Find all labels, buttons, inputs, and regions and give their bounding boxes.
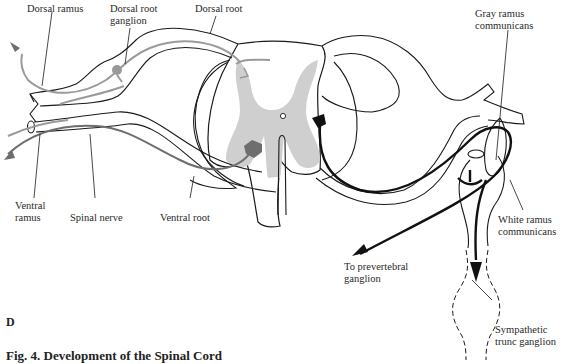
label-prevertebral: To prevertebral ganglion [344,261,408,285]
label-text: Gray ramus [475,8,533,20]
label-text: trunc ganglion [495,336,556,348]
label-sympathetic-trunk-ganglion: Sympathetic trunc ganglion [495,324,556,348]
label-gray-ramus: Gray ramus communicans [475,8,533,32]
dorsal-root-ganglion-cell [112,65,122,82]
label-text: ganglion [110,15,158,27]
right-nerve-roots [316,35,524,248]
label-text: To prevertebral [344,261,408,273]
label-spinal-nerve: Spinal nerve [70,212,123,224]
central-canal [280,113,285,118]
label-text: communicans [498,226,556,238]
label-dorsal-root-ganglion: Dorsal root ganglion [110,3,158,27]
label-text: Ventral [15,200,45,212]
prevertebral-arrow-icon [352,244,368,256]
label-text: Sympathetic [495,324,556,336]
label-dorsal-root: Dorsal root [195,3,243,15]
autonomic-fibers [320,126,511,260]
label-white-ramus: White ramus communicans [498,214,556,238]
label-text: Dorsal root [110,3,158,15]
label-text: Dorsal ramus [27,3,83,14]
dorsal-ramus-arrow-icon [10,42,20,52]
label-text: ganglion [344,273,408,285]
panel-letter: D [6,315,15,330]
label-ventral-ramus: Ventral ramus [15,200,45,224]
label-text: communicans [475,20,533,32]
label-text: White ramus [498,214,556,226]
label-text: ramus [15,212,45,224]
label-dorsal-ramus: Dorsal ramus [27,3,83,15]
label-text: Spinal nerve [70,212,123,223]
label-text: Dorsal root [195,3,243,14]
label-text: Ventral root [160,212,210,223]
label-ventral-root: Ventral root [160,212,210,224]
figure-caption: Fig. 4. Development of the Spinal Cord [6,348,222,364]
trunk-ganglion-arrow-icon [470,262,482,282]
